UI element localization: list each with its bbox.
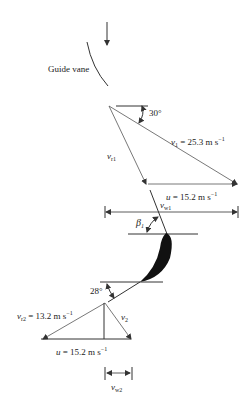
u2-value: = 15.2 m s: [61, 347, 101, 357]
vr2-value: = 13.2 m s: [26, 311, 66, 321]
angle-30-arc: [139, 106, 143, 123]
vr2-exponent: −1: [66, 310, 72, 316]
vw2-subscript: w2: [115, 387, 122, 393]
v2-label: v2: [121, 313, 128, 323]
u1-value: = 15.2 m s: [171, 192, 211, 202]
blade-outlet-line: [108, 282, 140, 302]
turbine-blade: [140, 233, 172, 282]
vr1-label: vr1: [107, 152, 116, 162]
guide-vane-label: Guide vane: [48, 65, 89, 74]
u1-exponent: −1: [211, 191, 217, 197]
vw2-label: vw2: [111, 383, 122, 393]
u2-exponent: −1: [101, 346, 107, 352]
beta1-label: β1: [136, 218, 144, 229]
angle-28-arc: [107, 284, 114, 298]
velocity-diagram: [0, 0, 251, 408]
v1-label: v1 = 25.3 m s−1: [171, 136, 225, 148]
v1-exponent: −1: [218, 136, 224, 142]
vw1-label: vw1: [160, 201, 171, 211]
u2-label: u = 15.2 m s−1: [56, 346, 107, 357]
vr1-subscript: r1: [111, 156, 116, 162]
vw1-subscript: w1: [164, 205, 171, 211]
vr2-label: vr2 = 13.2 m s−1: [17, 310, 73, 322]
beta1-arc: [147, 217, 158, 232]
angle-28-label: 28°: [90, 287, 103, 296]
beta1-subscript: 1: [141, 223, 144, 229]
v2-subscript: 2: [125, 317, 128, 323]
angle-30-label: 30°: [149, 109, 162, 118]
v1-value: = 25.3 m s: [178, 137, 218, 147]
u1-label: u = 15.2 m s−1: [166, 191, 217, 202]
guide-vane: [87, 42, 108, 86]
